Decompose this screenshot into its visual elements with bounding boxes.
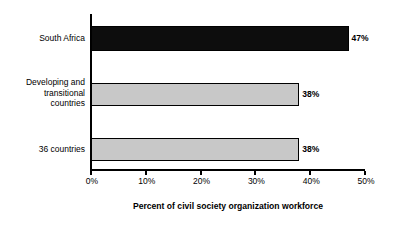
x-axis-tick-0 [90,171,92,175]
x-axis-tick-2 [200,171,202,175]
x-axis-tick-label-0: 0% [72,176,112,186]
bar-developing-and-transitional-countries [91,83,299,106]
x-axis-tick-label-1: 10% [127,176,167,186]
x-axis-tick-1 [145,171,147,175]
category-label-developing-and-transitional-countries: Developing and transitional countries [0,77,85,109]
x-axis-tick-label-3: 30% [236,176,276,186]
x-axis-tick-5 [364,171,366,175]
bar-value-south-africa: 47% [352,33,369,43]
category-label-south-africa: South Africa [0,33,85,44]
x-axis-tick-label-5: 50% [346,176,386,186]
bar-south-africa [91,26,349,51]
x-axis-tick-4 [309,171,311,175]
bar-36-countries [91,138,299,161]
category-label-36-countries: 36 countries [0,144,85,155]
x-axis-line [90,169,365,171]
x-axis-tick-label-4: 40% [291,176,331,186]
bar-value-36-countries: 38% [302,144,319,154]
x-axis-tick-label-2: 20% [182,176,222,186]
bar-chart: South Africa Developing and transitional… [0,0,404,226]
x-axis-tick-3 [254,171,256,175]
x-axis-title: Percent of civil society organization wo… [90,201,366,211]
bar-value-developing-and-transitional-countries: 38% [302,89,319,99]
